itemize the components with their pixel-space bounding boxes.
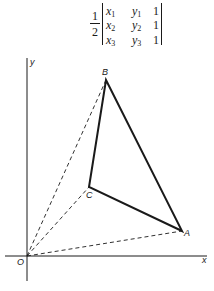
- point-c-label: C: [86, 191, 93, 200]
- triangle-figure: [0, 0, 214, 291]
- point-a-label: A: [184, 229, 190, 238]
- dashed-line-o-a: [27, 231, 182, 256]
- dashed-line-o-c: [27, 187, 89, 256]
- triangle-abc: [89, 80, 182, 231]
- dashed-line-o-b: [27, 80, 106, 256]
- y-axis-label: y: [30, 58, 35, 67]
- origin-label: O: [17, 258, 24, 267]
- point-b-label: B: [102, 68, 108, 77]
- x-axis-label: x: [202, 256, 207, 265]
